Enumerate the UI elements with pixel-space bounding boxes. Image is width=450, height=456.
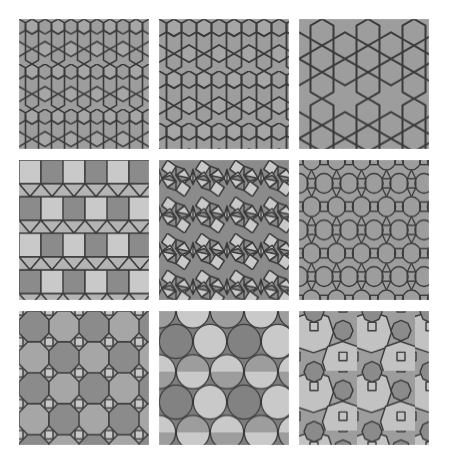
- tiling-pattern-gallery: [0, 0, 450, 456]
- tile-swatch-2[interactable]: [299, 19, 429, 149]
- tile-image-2: [299, 19, 429, 149]
- tile-swatch-7[interactable]: [159, 311, 289, 445]
- tile-image-6: [19, 311, 149, 445]
- tile-image-5: [299, 160, 429, 300]
- tile-image-0: [19, 19, 149, 149]
- tile-swatch-0[interactable]: [19, 19, 149, 149]
- tile-swatch-3[interactable]: [19, 160, 149, 300]
- tile-swatch-4[interactable]: [159, 160, 289, 300]
- tile-swatch-6[interactable]: [19, 311, 149, 445]
- tile-image-4: [159, 160, 289, 300]
- tile-image-8: [299, 311, 429, 445]
- tile-swatch-1[interactable]: [159, 19, 289, 149]
- tile-image-3: [19, 160, 149, 300]
- tile-swatch-8[interactable]: [299, 311, 429, 445]
- tile-image-7: [159, 311, 289, 445]
- tile-swatch-5[interactable]: [299, 160, 429, 300]
- tile-image-1: [159, 19, 289, 149]
